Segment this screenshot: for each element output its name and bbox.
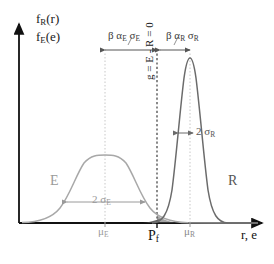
curve-r (152, 58, 258, 223)
width-label-2-sigma-e: 2 σE (92, 194, 111, 206)
dimension-label-beta-alpha-r-sigma-r: β αR σR (166, 30, 199, 42)
x-axis-label: r, e (241, 228, 257, 241)
y-axis-label: fR(r) fE(e) (36, 12, 60, 48)
y-axis-label-line1: fR(r) (36, 12, 60, 27)
curve-label-r: R (228, 174, 237, 188)
dimension-label-beta-alpha-e-sigma-e: β αE σE (108, 30, 140, 42)
curve-label-e: E (50, 174, 59, 188)
failure-probability-label: Pf (148, 229, 159, 245)
x-tick-label-mu-e: μE (98, 226, 108, 238)
curve-e (22, 155, 258, 223)
y-axis-label-line2: fE(e) (36, 30, 60, 45)
x-tick-label-mu-r: μR (184, 226, 195, 238)
width-label-2-sigma-r: 2 σR (196, 126, 215, 138)
limit-state-label: g = E - R = 0 (144, 0, 155, 80)
